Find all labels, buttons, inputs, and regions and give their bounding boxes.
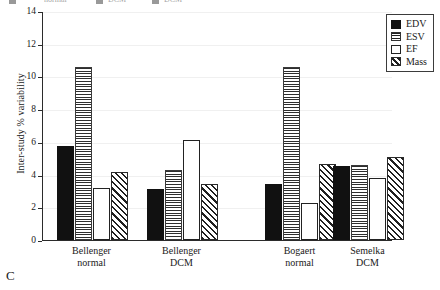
cropped-legend-strip-above: normal DCM DCM — [0, 0, 440, 8]
bar-mass-bellenger-dcm — [201, 184, 218, 240]
cropped-swatch — [9, 0, 16, 4]
bar-group — [265, 12, 336, 240]
bar-esv-semelka-dcm — [351, 165, 368, 240]
bar-edv-bellenger-dcm — [147, 189, 164, 240]
category-label-line: Semelka — [323, 245, 413, 257]
y-axis-tick — [38, 208, 42, 209]
legend-label: EF — [406, 44, 418, 54]
category-label-semelka-dcm: SemelkaDCM — [323, 245, 413, 268]
y-axis-label: Inter-study % variability — [15, 24, 26, 224]
bar-esv-bellenger-normal — [75, 67, 92, 240]
bar-group — [57, 12, 128, 240]
y-axis-tick — [38, 110, 42, 111]
y-axis-tick-label: 4 — [31, 171, 36, 181]
legend-swatch-ef-icon — [391, 45, 401, 54]
bar-esv-bogaert-normal — [283, 67, 300, 240]
bar-esv-bellenger-dcm — [165, 170, 182, 240]
y-axis-tick-label: 14 — [27, 7, 37, 17]
legend-item-esv[interactable]: ESV — [391, 31, 427, 44]
x-axis-line — [42, 240, 392, 241]
cropped-label-2: DCM — [108, 0, 126, 4]
plot-area: 02468101214 BellengernormalBellengerDCMB… — [42, 12, 392, 241]
legend-item-mass[interactable]: Mass — [391, 56, 427, 69]
bar-chart-figure: Inter-study % variability 02468101214 Be… — [0, 8, 440, 290]
bar-edv-bellenger-normal — [57, 146, 74, 240]
legend-label: ESV — [406, 32, 425, 42]
cropped-label-1: normal — [44, 0, 67, 4]
bar-mass-semelka-dcm — [387, 157, 404, 240]
category-label-bellenger-normal: Bellengernormal — [47, 245, 137, 268]
y-axis-tick — [38, 12, 42, 13]
cropped-swatch — [96, 0, 103, 4]
category-label-line: DCM — [323, 257, 413, 269]
bar-group — [147, 12, 218, 240]
y-axis-tick-label: 6 — [31, 138, 36, 148]
cropped-swatch — [152, 0, 159, 4]
legend-item-edv[interactable]: EDV — [391, 18, 427, 31]
y-axis-tick — [38, 176, 42, 177]
legend-swatch-edv-icon — [391, 20, 401, 29]
category-label-bellenger-dcm: BellengerDCM — [137, 245, 227, 268]
legend-item-ef[interactable]: EF — [391, 43, 427, 56]
y-axis-tick — [38, 77, 42, 78]
bar-ef-semelka-dcm — [369, 178, 386, 240]
y-axis-tick — [38, 143, 42, 144]
legend-label: Mass — [406, 57, 427, 67]
chart-legend: EDVESVEFMass — [386, 14, 434, 72]
legend-swatch-esv-icon — [391, 32, 401, 41]
y-axis-tick — [38, 241, 42, 242]
bar-ef-bellenger-normal — [93, 188, 110, 240]
y-axis-tick-label: 2 — [31, 204, 36, 214]
y-axis-tick-label: 0 — [31, 236, 36, 246]
panel-letter: C — [6, 268, 15, 284]
bar-mass-bellenger-normal — [111, 172, 128, 240]
category-label-line: DCM — [137, 257, 227, 269]
category-label-line: Bellenger — [137, 245, 227, 257]
y-axis-tick-label: 8 — [31, 105, 36, 115]
y-axis-tick — [38, 45, 42, 46]
bar-edv-semelka-dcm — [333, 166, 350, 240]
y-axis-tick-label: 12 — [27, 40, 37, 50]
cropped-label-3: DCM — [164, 0, 182, 4]
bar-groups — [43, 12, 392, 240]
y-axis-tick-label: 10 — [27, 73, 37, 83]
legend-label: EDV — [406, 19, 427, 29]
category-label-line: normal — [47, 257, 137, 269]
bar-ef-bogaert-normal — [301, 203, 318, 240]
bar-edv-bogaert-normal — [265, 184, 282, 240]
category-label-line: Bellenger — [47, 245, 137, 257]
legend-swatch-mass-icon — [391, 57, 401, 66]
bar-ef-bellenger-dcm — [183, 140, 200, 240]
